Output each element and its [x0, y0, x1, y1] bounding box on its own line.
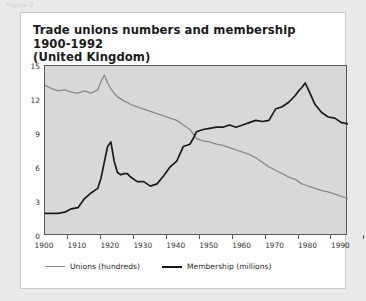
x-axis-tick-1900: 1900 — [35, 241, 54, 250]
x-axis-tickmark-1940 — [199, 235, 200, 239]
legend-swatch-unions-icon — [45, 266, 65, 267]
x-axis-tick-labels: 1900191019201930194019501960197019801990 — [21, 241, 366, 253]
series-line-unions — [45, 75, 348, 199]
legend-item-membership: Membership (millions) — [162, 262, 272, 271]
x-axis-tickmark-1910 — [100, 235, 101, 239]
series-line-membership — [45, 83, 348, 213]
chart-card: Trade unions numbers and membership 1900… — [20, 12, 346, 289]
x-axis-tickmark-1990 — [363, 235, 364, 239]
legend-swatch-membership-icon — [162, 266, 182, 268]
x-axis-tickmark-1950 — [232, 235, 233, 239]
x-axis-tickmark-1980 — [330, 235, 331, 239]
x-axis-tickmark-1930 — [166, 235, 167, 239]
page-root: Figure 2 Trade unions numbers and member… — [0, 0, 366, 301]
y-axis-tick-3: 3 — [24, 198, 40, 207]
legend-item-unions: Unions (hundreds) — [45, 262, 140, 271]
x-axis-tick-1990: 1990 — [331, 241, 350, 250]
x-axis-tick-1950: 1950 — [199, 241, 218, 250]
y-axis-tick-0: 0 — [24, 232, 40, 241]
chart-legend: Unions (hundreds) Membership (millions) — [45, 262, 271, 271]
x-axis-tick-1910: 1910 — [68, 241, 87, 250]
corner-stub-text: Figure 2 — [6, 1, 34, 8]
plot-region — [44, 65, 347, 237]
x-axis-tick-1980: 1980 — [298, 241, 317, 250]
x-axis-tickmark-1960 — [265, 235, 266, 239]
x-axis-tick-1960: 1960 — [232, 241, 251, 250]
x-axis-tick-1920: 1920 — [100, 241, 119, 250]
page-title: Trade unions numbers and membership 1900… — [33, 24, 333, 65]
x-axis-tickmark-1900 — [67, 235, 68, 239]
x-axis-tickmark-1920 — [133, 235, 134, 239]
x-axis-tick-1940: 1940 — [166, 241, 185, 250]
legend-label-unions: Unions (hundreds) — [70, 262, 140, 271]
y-axis-tick-9: 9 — [24, 130, 40, 139]
x-axis-tick-1970: 1970 — [265, 241, 284, 250]
legend-label-membership: Membership (millions) — [187, 262, 272, 271]
plot-area — [44, 65, 347, 235]
chart-title-line1: Trade unions numbers and membership 1900… — [33, 23, 296, 51]
y-axis-tick-12: 12 — [24, 96, 40, 105]
x-axis-tickmark-1970 — [298, 235, 299, 239]
chart-lines-svg — [45, 66, 348, 236]
y-axis-tick-labels: 03691215 — [21, 65, 40, 237]
y-axis-tick-6: 6 — [24, 164, 40, 173]
y-axis-tick-15: 15 — [24, 62, 40, 71]
x-axis-tick-1930: 1930 — [133, 241, 152, 250]
chart-title-line2: (United Kingdom) — [33, 50, 150, 64]
